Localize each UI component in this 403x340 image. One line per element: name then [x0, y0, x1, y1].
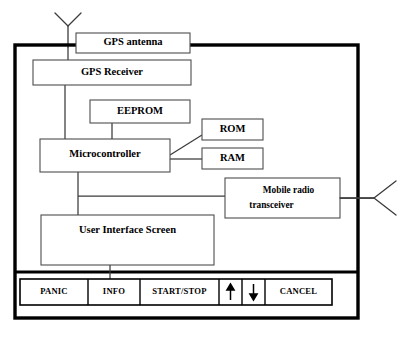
button-label-cancel: CANCEL: [280, 286, 318, 296]
gps-antenna-vee: [55, 13, 81, 26]
block-eeprom: EEPROM: [90, 100, 190, 123]
button-down[interactable]: [242, 279, 265, 305]
ui-screen-box: [41, 215, 214, 265]
ui-screen-label: User Interface Screen: [79, 224, 176, 235]
button-panic[interactable]: PANIC: [20, 279, 88, 305]
block-gps-antenna: GPS antenna: [76, 33, 190, 53]
block-microcontroller: Microcontroller: [40, 139, 170, 172]
button-start-stop[interactable]: START/STOP: [140, 279, 219, 305]
eeprom-label: EEPROM: [117, 105, 163, 116]
block-diagram-figure: GPS antenna GPS Receiver EEPROM ROM RAM …: [0, 0, 403, 340]
button-cells: PANICINFOSTART/STOPCANCEL: [20, 279, 332, 305]
button-info[interactable]: INFO: [88, 279, 140, 305]
button-label-panic: PANIC: [40, 286, 68, 296]
button-up[interactable]: [219, 279, 242, 305]
wire-microcontroller-to-rom: [170, 135, 202, 155]
radio-antenna-vee: [374, 181, 396, 215]
button-cancel[interactable]: CANCEL: [265, 279, 332, 305]
keypad-button-bar: PANICINFOSTART/STOPCANCEL: [20, 279, 332, 305]
transceiver-box: [225, 178, 340, 218]
radio-antenna-icon: [340, 181, 396, 215]
rom-label: ROM: [220, 123, 246, 134]
ram-label: RAM: [220, 152, 245, 163]
button-label-start-stop: START/STOP: [152, 286, 206, 296]
gps-antenna-label: GPS antenna: [103, 36, 163, 47]
microcontroller-label: Microcontroller: [69, 148, 141, 159]
diagram-canvas: GPS antenna GPS Receiver EEPROM ROM RAM …: [0, 0, 403, 340]
transceiver-label-line1: Mobile radio: [263, 185, 315, 195]
block-gps-receiver: GPS Receiver: [33, 60, 191, 85]
block-rom: ROM: [202, 119, 263, 140]
block-ram: RAM: [202, 148, 263, 169]
transceiver-label-line2: transceiver: [249, 200, 293, 210]
block-ui-screen: User Interface Screen: [41, 215, 214, 265]
gps-receiver-label: GPS Receiver: [81, 66, 143, 77]
block-transceiver: Mobile radio transceiver: [225, 178, 340, 218]
button-label-info: INFO: [103, 286, 125, 296]
